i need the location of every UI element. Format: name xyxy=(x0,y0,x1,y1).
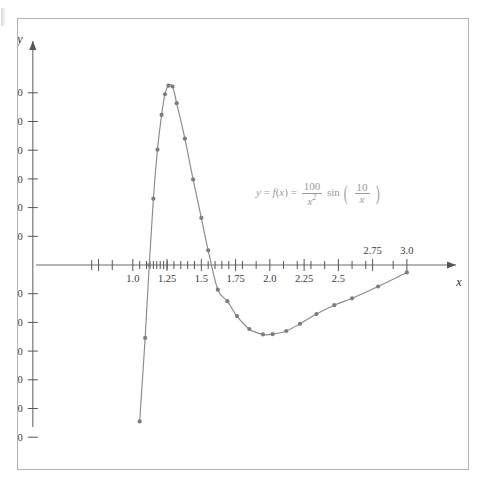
equation-denominator-exponent: 2 xyxy=(312,193,316,202)
data-point-marker xyxy=(206,248,210,252)
page-edge-artifact xyxy=(1,8,6,26)
data-point-marker xyxy=(183,137,187,141)
data-point-marker xyxy=(216,288,220,292)
y-tick-label: −30 xyxy=(18,346,23,357)
equation-lhs-y: y xyxy=(256,186,261,198)
y-tick-label: 20 xyxy=(18,202,23,213)
y-tick-label: 60 xyxy=(18,87,23,98)
equation-fraction-denominator-x2: x2 xyxy=(302,193,323,207)
equation-equals-2: = xyxy=(291,186,297,198)
x-axis-label: x xyxy=(455,275,462,289)
data-point-marker xyxy=(191,177,195,181)
equation-fraction-100-over-x2: 100 x2 xyxy=(302,181,323,207)
data-point-marker xyxy=(166,84,170,88)
data-point-marker xyxy=(155,148,159,152)
y-tick-label: 40 xyxy=(18,145,23,156)
y-tick-label: −60 xyxy=(18,432,23,443)
data-point-marker xyxy=(332,303,336,307)
data-point-marker xyxy=(170,84,174,88)
equation-fraction-10-over-x: 10 x xyxy=(355,182,370,206)
figure-container: xy1.01.251.51.752.02.252.52.753.06050403… xyxy=(0,0,496,489)
function-plot: xy1.01.251.51.752.02.252.52.753.06050403… xyxy=(18,19,468,469)
figure-frame: xy1.01.251.51.752.02.252.52.753.06050403… xyxy=(17,18,469,470)
data-point-marker xyxy=(163,92,167,96)
y-axis-arrowhead xyxy=(29,41,36,50)
equation-fn-close-paren: ) xyxy=(284,186,288,198)
y-tick-label: 30 xyxy=(18,174,23,185)
data-point-marker xyxy=(376,284,380,288)
equation-fraction-denominator-x: x xyxy=(355,193,370,206)
y-tick-label: −40 xyxy=(18,374,23,385)
x-tick-label: 1.0 xyxy=(126,273,139,284)
y-axis-label: y xyxy=(18,32,23,46)
x-tick-label: 1.5 xyxy=(195,273,208,284)
data-point-marker xyxy=(143,336,147,340)
x-tick-label: 1.25 xyxy=(158,273,176,284)
y-tick-label: 10 xyxy=(18,231,23,242)
data-point-marker xyxy=(284,329,288,333)
data-point-marker xyxy=(151,197,155,201)
x-tick-label: 1.75 xyxy=(226,273,244,284)
equation-close-paren-large: ) xyxy=(376,184,380,203)
equation-sin-operator: sin xyxy=(327,186,340,198)
data-point-marker xyxy=(225,299,229,303)
equation-open-paren-large: ( xyxy=(344,184,348,203)
y-tick-label: 50 xyxy=(18,116,23,127)
data-point-marker xyxy=(159,113,163,117)
data-point-marker xyxy=(270,332,274,336)
x-tick-label: 2.5 xyxy=(332,273,345,284)
data-point-marker xyxy=(261,332,265,336)
x-tick-label: 2.25 xyxy=(295,273,313,284)
data-point-marker xyxy=(405,270,409,274)
y-tick-label: −50 xyxy=(18,403,23,414)
equation-annotation: y = f(x) = 100 x2 sin ( 10 x ) xyxy=(256,181,382,207)
data-point-marker xyxy=(199,216,203,220)
data-point-marker xyxy=(314,312,318,316)
equation-fraction-numerator-10: 10 xyxy=(355,182,370,194)
x-tick-label: 3.0 xyxy=(400,245,413,256)
x-tick-label: 2.0 xyxy=(263,273,276,284)
data-point-marker xyxy=(138,419,142,423)
y-tick-label: −20 xyxy=(18,317,23,328)
data-point-marker xyxy=(298,322,302,326)
y-tick-label: −10 xyxy=(18,288,23,299)
data-point-marker xyxy=(147,263,151,267)
data-point-marker xyxy=(175,101,179,105)
x-tick-label: 2.75 xyxy=(363,245,381,256)
equation-fraction-numerator-100: 100 xyxy=(302,181,323,193)
x-axis-arrowhead xyxy=(447,261,456,268)
data-point-marker xyxy=(247,327,251,331)
equation-equals-1: = xyxy=(264,186,270,198)
data-point-marker xyxy=(235,314,239,318)
data-point-marker xyxy=(350,296,354,300)
